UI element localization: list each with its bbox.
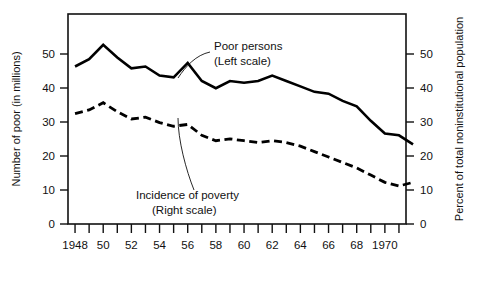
x-tick-label-1966: 66 bbox=[322, 239, 335, 251]
poor-persons-label-line2: (Left scale) bbox=[214, 55, 271, 67]
poor-persons-label-line1: Poor persons bbox=[214, 40, 283, 52]
left-tick-label-40: 40 bbox=[42, 82, 55, 94]
x-tick-label-1960: 60 bbox=[238, 239, 251, 251]
x-axis-ticks bbox=[75, 224, 399, 233]
left-axis-title: Number of poor (in millions) bbox=[10, 51, 22, 186]
x-tick-label-1970: 1970 bbox=[372, 239, 398, 251]
x-axis-tick-labels: 1948505254565860626466681970 bbox=[62, 239, 397, 251]
x-tick-label-1952: 52 bbox=[125, 239, 138, 251]
series-incidence-of-poverty bbox=[75, 103, 413, 186]
right-tick-label-0: 0 bbox=[420, 218, 426, 230]
x-tick-label-1950: 50 bbox=[97, 239, 110, 251]
x-tick-label-1956: 56 bbox=[181, 239, 194, 251]
incidence-label-line1: Incidence of poverty bbox=[136, 189, 239, 201]
chart-svg: 0 10 20 30 40 50 0 10 20 30 40 50 194850… bbox=[0, 0, 477, 289]
x-tick-label-1954: 54 bbox=[153, 239, 166, 251]
right-tick-label-10: 10 bbox=[420, 184, 433, 196]
left-tick-label-0: 0 bbox=[49, 218, 55, 230]
poor-persons-leader-line bbox=[178, 52, 210, 78]
left-tick-label-30: 30 bbox=[42, 116, 55, 128]
left-tick-label-10: 10 bbox=[42, 184, 55, 196]
right-axis-ticks bbox=[406, 54, 414, 224]
right-axis-title: Percent of total noninstitutional popula… bbox=[453, 17, 465, 221]
x-tick-label-1968: 68 bbox=[350, 239, 363, 251]
x-tick-label-1964: 64 bbox=[294, 239, 307, 251]
incidence-label-line2: (Right scale) bbox=[152, 204, 217, 216]
right-tick-label-50: 50 bbox=[420, 48, 433, 60]
right-tick-label-20: 20 bbox=[420, 150, 433, 162]
left-tick-label-20: 20 bbox=[42, 150, 55, 162]
right-tick-label-30: 30 bbox=[420, 116, 433, 128]
left-axis-ticks bbox=[60, 54, 68, 224]
chart-figure: 0 10 20 30 40 50 0 10 20 30 40 50 194850… bbox=[0, 0, 477, 289]
x-tick-label-1948: 1948 bbox=[62, 239, 88, 251]
x-tick-label-1958: 58 bbox=[209, 239, 222, 251]
right-tick-label-40: 40 bbox=[420, 82, 433, 94]
x-tick-label-1962: 62 bbox=[266, 239, 279, 251]
left-tick-label-50: 50 bbox=[42, 48, 55, 60]
